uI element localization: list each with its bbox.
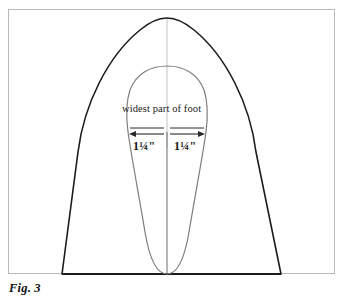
diagram-frame <box>8 9 335 274</box>
widest-part-label: widest part of foot <box>122 104 201 115</box>
measurement-right-value: 1¼" <box>174 140 196 152</box>
measurement-left-value: 1¼" <box>133 140 155 152</box>
figure-caption: Fig. 3 <box>9 281 41 296</box>
figure-container: widest part of foot 1¼" 1¼" Fig. 3 <box>0 0 344 300</box>
